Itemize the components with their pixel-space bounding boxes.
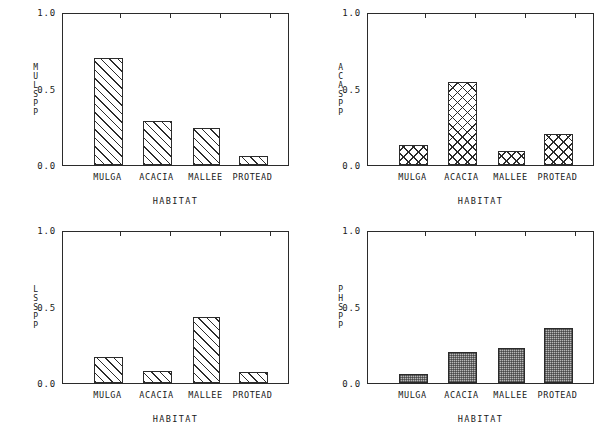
y-axis-title-letter: P <box>30 312 42 321</box>
y-tick-label: 0.5 <box>18 85 56 95</box>
bar-mulga <box>399 145 428 165</box>
bars-layer <box>368 232 593 383</box>
y-tick-label: 1.0 <box>18 8 56 18</box>
y-axis-title-letter: P <box>30 108 42 117</box>
x-tick-mark-top <box>475 231 476 236</box>
x-tick-label-acacia: ACACIA <box>129 172 185 182</box>
chart-panel-phspp: PHSPP1.00.50.0MULGAACACIAMALLEEPROTEADHA… <box>305 218 610 435</box>
bar-protead <box>239 156 268 165</box>
x-tick-label-mulga: MULGA <box>80 172 136 182</box>
y-tick-label: 0.0 <box>323 161 361 171</box>
y-tick-label: 0.0 <box>18 379 56 389</box>
x-tick-label-protead: PROTEAD <box>225 172 281 182</box>
x-tick-mark-top <box>525 231 526 236</box>
plot-frame <box>62 13 289 166</box>
y-axis-title-letter: M <box>30 63 42 72</box>
plot-frame <box>367 13 594 166</box>
y-tick-label: 0.0 <box>323 379 361 389</box>
x-axis-title: HABITAT <box>62 196 289 206</box>
x-tick-label-acacia: ACACIA <box>129 390 185 400</box>
x-tick-mark-top <box>425 13 426 18</box>
x-tick-label-mulga: MULGA <box>385 172 441 182</box>
y-axis-title-letter: C <box>335 72 347 81</box>
y-axis-title-letter: P <box>30 99 42 108</box>
y-axis-title-letter: L <box>30 285 42 294</box>
x-tick-label-mulga: MULGA <box>385 390 441 400</box>
x-tick-mark-top <box>170 13 171 18</box>
x-tick-label-acacia: ACACIA <box>434 390 490 400</box>
x-tick-label-protead: PROTEAD <box>530 390 586 400</box>
bar-acacia <box>143 371 172 383</box>
bar-mulga <box>94 58 123 165</box>
y-axis-title-letter: P <box>335 312 347 321</box>
y-tick-label: 0.5 <box>18 303 56 313</box>
y-axis-title-letter: U <box>30 72 42 81</box>
bar-mallee <box>498 348 525 383</box>
y-tick-label: 0.0 <box>18 161 56 171</box>
bar-acacia <box>448 82 477 165</box>
x-tick-label-acacia: ACACIA <box>434 172 490 182</box>
x-tick-label-protead: PROTEAD <box>530 172 586 182</box>
x-tick-mark-top <box>170 231 171 236</box>
x-tick-mark-top <box>575 231 576 236</box>
x-tick-mark-top <box>270 231 271 236</box>
bar-mulga <box>94 357 123 383</box>
bars-layer <box>63 232 288 383</box>
x-tick-mark-top <box>120 231 121 236</box>
chart-panel-lsspp: LSSPP1.00.50.0MULGAACACIAMALLEEPROTEADHA… <box>0 218 305 435</box>
y-axis-title-letter: P <box>335 285 347 294</box>
plot-frame <box>367 231 594 384</box>
y-axis-title-letter: P <box>335 321 347 330</box>
x-tick-label-mulga: MULGA <box>80 390 136 400</box>
y-tick-label: 1.0 <box>18 226 56 236</box>
y-axis-title-letter: P <box>30 321 42 330</box>
y-tick-label: 1.0 <box>323 8 361 18</box>
chart-panel-acaspp: ACASPP1.00.50.0MULGAACACIAMALLEEPROTEADH… <box>305 0 610 217</box>
y-axis-title-letter: A <box>335 63 347 72</box>
bar-mallee <box>193 317 220 383</box>
bar-protead <box>544 328 573 383</box>
y-tick-label: 0.5 <box>323 303 361 313</box>
bar-protead <box>544 134 573 165</box>
bars-layer <box>63 14 288 165</box>
x-tick-mark-top <box>120 13 121 18</box>
bar-mallee <box>193 128 220 165</box>
x-tick-mark-top <box>220 13 221 18</box>
x-tick-mark-top <box>270 13 271 18</box>
bar-acacia <box>448 352 477 383</box>
x-tick-label-protead: PROTEAD <box>225 390 281 400</box>
bar-acacia <box>143 121 172 165</box>
y-tick-label: 1.0 <box>323 226 361 236</box>
y-tick-label: 0.5 <box>323 85 361 95</box>
y-axis-title-letter: P <box>335 108 347 117</box>
plot-frame <box>62 231 289 384</box>
bars-layer <box>368 14 593 165</box>
x-tick-mark-top <box>220 231 221 236</box>
y-axis-title-letter: P <box>335 99 347 108</box>
bar-protead <box>239 372 268 383</box>
x-axis-title: HABITAT <box>367 196 594 206</box>
x-tick-mark-top <box>475 13 476 18</box>
bar-mallee <box>498 151 525 165</box>
chart-panel-mulspp: MULSPP1.00.50.0MULGAACACIAMALLEEPROTEADH… <box>0 0 305 217</box>
figure-panel-grid: MULSPP1.00.50.0MULGAACACIAMALLEEPROTEADH… <box>0 0 610 435</box>
x-axis-title: HABITAT <box>62 414 289 424</box>
x-axis-title: HABITAT <box>367 414 594 424</box>
x-tick-mark-top <box>575 13 576 18</box>
x-tick-mark-top <box>525 13 526 18</box>
bar-mulga <box>399 374 428 383</box>
x-tick-mark-top <box>425 231 426 236</box>
